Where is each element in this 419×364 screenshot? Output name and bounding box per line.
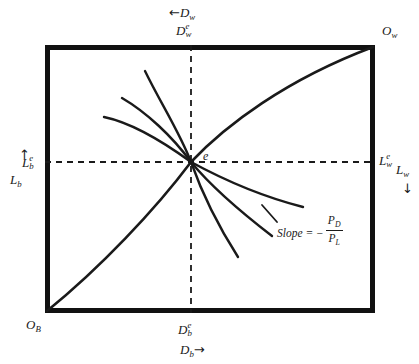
ob-sub: B [35,324,40,334]
slope-num-base: P [328,214,335,226]
slope-denominator: PL [326,232,343,247]
equilibrium-point-label: e [203,150,208,162]
slope-numerator: PD [326,214,343,229]
equilibrium-label-lw: L e w [379,152,392,169]
dbe-sub: b [187,329,191,337]
slope-minus: − [316,227,324,239]
origin-label-black: OB [26,318,41,334]
equilibrium-point-marker [188,159,193,164]
down-arrow-icon: ↓ [402,181,413,196]
indifference-curve-black-1 [104,117,191,162]
lbe-sub: b [29,162,33,170]
dwe-sub: w [185,30,191,38]
e-text: e [203,149,208,163]
slope-leader-line [262,205,277,222]
indifference-curve-black-2 [122,98,191,162]
slope-word: Slope [277,227,303,239]
left-axis-label: Lb [10,173,22,189]
ow-sub: w [391,30,397,40]
origin-label-white: Ow [382,24,397,40]
left-axis-arrow: ↑ [19,148,30,161]
lwe-base: L [379,153,386,168]
ow-base: O [382,23,391,38]
left-arrow-icon: ← [169,5,180,20]
fraction-bar [326,230,343,231]
indifference-curve-black-3 [145,71,191,162]
right-arrow-icon: → [194,342,205,357]
equilibrium-label-db: D e b [178,321,192,338]
right-axis-label: Lw [396,163,409,179]
top-axis-sub: w [189,12,195,22]
slope-annotation: Slope = − PD PL [277,214,343,246]
lwe-supsub: e w [386,152,392,169]
dbe-base: D [178,322,187,337]
right-axis-sub: w [403,169,409,179]
indifference-curve-white-1 [191,162,238,257]
up-arrow-icon: ↑ [19,147,30,162]
slope-fraction: PD PL [326,214,343,246]
edgeworth-box-border [48,48,373,311]
contract-curve [47,47,373,311]
edgeworth-diagram-canvas [0,0,419,364]
slope-num-sub: D [335,220,341,229]
dwe-base: D [176,23,185,38]
bottom-axis-label: Db→ [180,343,205,359]
ob-base: O [26,317,35,332]
top-axis-label: ←Dw [169,6,195,22]
slope-den-base: P [328,232,335,244]
top-axis-base: D [180,5,189,20]
equilibrium-label-dw: D e w [176,22,191,39]
dwe-supsub: e w [185,22,191,39]
indifference-curve-white-2 [191,162,272,236]
slope-equals: = [305,227,313,239]
lwe-sub: w [386,160,392,168]
right-axis-arrow: ↓ [402,182,413,195]
slope-den-sub: L [336,237,340,246]
edgeworth-box-figure: ←Dw D e w Ow OB D e b Db→ L e b ↑ Lb [0,0,419,364]
bottom-axis-base: D [180,342,189,357]
left-axis-sub: b [17,179,21,189]
dbe-supsub: e b [187,321,191,338]
